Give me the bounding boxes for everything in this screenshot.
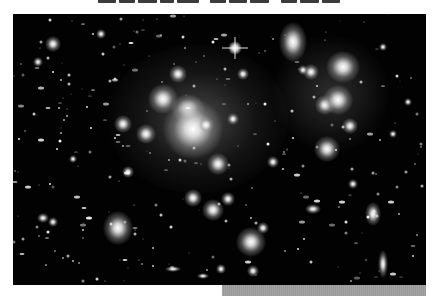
faint-galaxy-speck: [124, 171, 130, 174]
faint-galaxy-speck: [178, 158, 181, 161]
faint-galaxy-speck: [325, 32, 326, 33]
faint-galaxy-speck: [365, 259, 367, 261]
galaxy: [279, 22, 307, 62]
galaxy: [305, 204, 321, 214]
faint-galaxy-speck: [218, 158, 219, 159]
faint-galaxy-speck: [49, 183, 51, 185]
faint-galaxy-speck: [360, 272, 361, 273]
faint-galaxy-speck: [376, 193, 379, 196]
faint-galaxy-speck: [168, 159, 170, 161]
faint-galaxy-speck: [108, 212, 109, 213]
galaxy: [216, 264, 226, 274]
galaxy: [69, 155, 77, 163]
faint-galaxy-speck: [13, 181, 17, 183]
faint-galaxy-speck: [135, 30, 138, 33]
faint-galaxy-speck: [394, 123, 395, 124]
faint-galaxy-speck: [74, 152, 78, 153]
faint-galaxy-speck: [314, 200, 320, 203]
faint-galaxy-speck: [105, 280, 106, 281]
faint-galaxy-speck: [109, 222, 112, 225]
galaxy: [323, 85, 353, 115]
faint-galaxy-speck: [62, 98, 63, 99]
faint-galaxy-speck: [316, 85, 318, 87]
faint-galaxy-speck: [108, 79, 111, 82]
faint-galaxy-speck: [109, 176, 112, 179]
faint-galaxy-speck: [224, 67, 227, 70]
faint-galaxy-speck: [416, 234, 418, 236]
faint-galaxy-speck: [58, 102, 62, 103]
faint-galaxy-speck: [90, 127, 92, 129]
faint-galaxy-speck: [185, 94, 186, 95]
faint-galaxy-speck: [399, 80, 400, 81]
faint-galaxy-speck: [103, 119, 107, 120]
faint-galaxy-speck: [61, 128, 62, 129]
faint-galaxy-speck: [364, 21, 365, 22]
faint-galaxy-speck: [286, 150, 287, 151]
faint-galaxy-speck: [372, 172, 375, 175]
galaxy: [103, 211, 133, 245]
faint-galaxy-speck: [86, 217, 92, 220]
faint-galaxy-speck: [21, 238, 24, 241]
faint-galaxy-speck: [325, 39, 326, 40]
faint-galaxy-speck: [251, 187, 253, 189]
faint-galaxy-speck: [38, 86, 44, 89]
faint-galaxy-speck: [267, 143, 270, 146]
faint-galaxy-speck: [74, 196, 80, 199]
faint-galaxy-speck: [217, 203, 220, 206]
faint-galaxy-speck: [114, 137, 116, 139]
faint-galaxy-speck: [354, 242, 358, 243]
faint-galaxy-speck: [330, 124, 333, 127]
faint-galaxy-speck: [173, 63, 175, 65]
faint-galaxy-speck: [67, 255, 70, 258]
faint-galaxy-speck: [152, 265, 154, 267]
faint-galaxy-speck: [191, 195, 192, 196]
faint-galaxy-speck: [142, 238, 143, 239]
galaxy: [379, 43, 387, 51]
faint-galaxy-speck: [114, 78, 117, 81]
faint-galaxy-speck: [156, 18, 157, 19]
faint-galaxy-speck: [67, 108, 68, 109]
faint-galaxy-speck: [156, 35, 162, 38]
faint-galaxy-speck: [263, 103, 266, 106]
galaxy: [184, 189, 202, 207]
faint-galaxy-speck: [255, 275, 256, 276]
faint-galaxy-speck: [49, 18, 52, 21]
faint-galaxy-speck: [245, 204, 247, 206]
faint-galaxy-speck: [389, 14, 390, 15]
faint-galaxy-speck: [396, 185, 399, 188]
galaxy: [198, 117, 214, 133]
faint-galaxy-speck: [116, 134, 121, 136]
faint-galaxy-speck: [113, 46, 116, 49]
faint-galaxy-speck: [216, 79, 217, 80]
faint-galaxy-speck: [80, 224, 86, 227]
faint-galaxy-speck: [33, 113, 36, 116]
faint-galaxy-speck: [141, 263, 143, 265]
faint-galaxy-speck: [18, 138, 20, 140]
galaxy: [114, 115, 132, 133]
faint-galaxy-speck: [379, 270, 380, 271]
faint-galaxy-speck: [61, 62, 62, 63]
faint-galaxy-speck: [313, 96, 316, 99]
faint-galaxy-speck: [396, 75, 399, 78]
faint-galaxy-speck: [88, 151, 91, 154]
faint-galaxy-speck: [134, 31, 135, 32]
faint-galaxy-speck: [373, 209, 376, 212]
faint-galaxy-speck: [149, 152, 151, 154]
faint-galaxy-speck: [411, 245, 416, 247]
page-title-clipped: [0, 0, 437, 8]
faint-galaxy-speck: [39, 40, 42, 43]
galaxy: [136, 124, 156, 144]
faint-galaxy-speck: [339, 20, 340, 21]
faint-galaxy-speck: [224, 219, 227, 222]
faint-galaxy-speck: [51, 185, 54, 188]
galaxy: [163, 99, 223, 159]
faint-galaxy-speck: [416, 112, 419, 115]
faint-galaxy-speck: [78, 262, 80, 264]
galaxy: [37, 213, 49, 223]
faint-galaxy-speck: [227, 163, 230, 166]
faint-galaxy-speck: [154, 203, 157, 206]
faint-galaxy-speck: [274, 121, 275, 122]
faint-galaxy-speck: [291, 39, 293, 41]
faint-galaxy-speck: [182, 36, 185, 39]
faint-galaxy-speck: [47, 57, 50, 60]
